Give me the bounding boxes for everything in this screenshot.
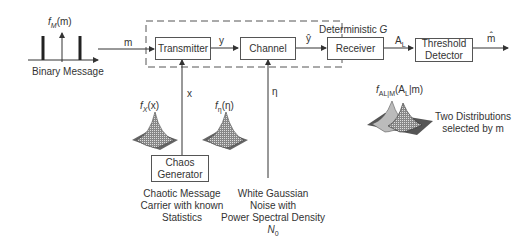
binary-message-caption: Binary Message [32,66,104,78]
signal-al-label: AL [395,35,406,51]
binary-message-pdf-label: fM(m) [48,16,72,32]
signal-m-hat-label: m̂ [487,33,495,45]
channel-block: Channel [240,37,296,60]
chaos-generator-block: Chaos Generator [151,155,209,182]
noise-caption: White Gaussian Noise with Power Spectral… [218,188,328,240]
transmitter-block: Transmitter [155,37,211,60]
threshold-detector-block: Threshold Detector [415,38,473,62]
feta-label: fη(η) [215,100,234,116]
signal-eta-label: η [272,86,278,98]
deterministic-label: Deterministic G [319,24,387,36]
signal-y-label: y [219,35,224,47]
signal-m-label: m [124,37,132,49]
two-distributions-plot [367,101,433,135]
receiver-block: Receiver [327,37,384,60]
signal-y-hat-label: ŷ [306,33,311,45]
binary-message-pdf [28,33,98,62]
feta-distribution-plot [202,112,248,150]
fal-label: fAL|M(AL|m) [376,84,423,100]
fx-label: fX(x) [140,100,159,116]
fx-distribution-plot [132,112,178,150]
signal-x-label: x [187,88,192,100]
chaotic-carrier-caption: Chaotic Message Carrier with known Stati… [134,188,230,224]
two-distributions-caption: Two Distributions selected by m [428,111,518,135]
